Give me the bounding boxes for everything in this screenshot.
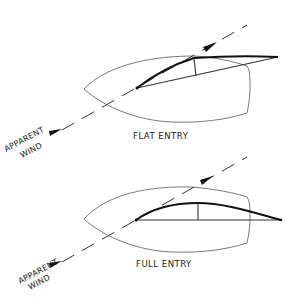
sail-chord xyxy=(137,57,278,88)
tack-point xyxy=(135,219,138,222)
hull-outline xyxy=(84,56,250,122)
tack-point xyxy=(136,87,139,90)
wind-arrowhead-origin xyxy=(49,129,62,136)
full-entry-caption: FULL ENTRY xyxy=(136,259,192,269)
sail-entry-diagram: FLAT ENTRY APPARENT WIND FULL ENTRY APPA… xyxy=(0,0,298,307)
apparent-wind-line xyxy=(62,25,247,130)
full-entry-figure: FULL ENTRY APPARENT WIND xyxy=(17,157,283,292)
wind-arrowhead xyxy=(200,176,213,185)
wind-arrowhead xyxy=(203,42,217,52)
flat-entry-figure: FLAT ENTRY APPARENT WIND xyxy=(3,25,278,160)
flat-entry-caption: FLAT ENTRY xyxy=(133,131,189,141)
clew-point xyxy=(280,219,283,222)
draft-depth-line xyxy=(194,58,196,76)
sail-camber-full xyxy=(136,203,281,220)
